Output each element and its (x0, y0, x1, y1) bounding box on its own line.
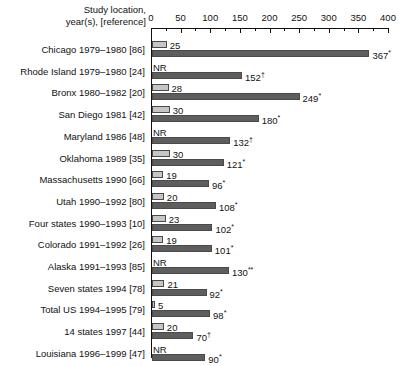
row-light-bar (152, 84, 169, 91)
chart-row: Utah 1990–1992 [80]20108* (0, 192, 399, 214)
value-marker-symbol: ** (248, 266, 253, 273)
row-dark-value-label: 367* (372, 49, 391, 61)
row-category-label: Massachusetts 1990 [66] (0, 174, 145, 185)
chart-row: Louisiana 1996–1999 [47]NR90* (0, 344, 399, 366)
row-dark-value-label: 152† (245, 71, 265, 83)
row-category-label: Utah 1990–1992 [80] (0, 196, 145, 207)
value-marker-symbol: † (261, 71, 265, 78)
row-category-label: Louisiana 1996–1999 [47] (0, 348, 145, 359)
x-axis-tick-minor (255, 28, 256, 31)
row-dark-bar (152, 72, 242, 79)
row-dark-bar (152, 159, 224, 166)
x-axis-tick-major (210, 28, 211, 33)
chart-row: Four states 1990–1993 [10]23102* (0, 214, 399, 236)
row-dark-bar (152, 180, 209, 187)
row-light-bar (152, 150, 170, 157)
chart-row: Oklahoma 1989 [35]30121* (0, 149, 399, 171)
row-category-label: 14 states 1997 [44] (0, 326, 145, 337)
row-light-bar (152, 215, 166, 222)
row-dark-value-label: 108* (219, 201, 238, 213)
row-dark-value-label: 132† (233, 136, 253, 148)
row-dark-bar (152, 289, 207, 296)
chart-row: Bronx 1980–1982 [20]28249* (0, 83, 399, 105)
x-axis-tick-major (358, 28, 359, 33)
header-line-2: year(s), [reference] (0, 16, 146, 28)
row-dark-bar (152, 354, 205, 361)
x-axis-tick-label: 350 (350, 12, 366, 23)
row-dark-value-label: 249* (303, 92, 322, 104)
row-dark-bar (152, 332, 193, 339)
row-light-bar (152, 236, 163, 243)
x-axis-tick-minor (284, 28, 285, 31)
x-axis-tick-major (181, 28, 182, 33)
x-axis-tick-major (388, 28, 389, 33)
value-marker-symbol: * (220, 288, 223, 295)
row-light-bar (152, 301, 155, 308)
x-axis-tick-minor (344, 28, 345, 31)
row-category-label: San Diego 1981 [42] (0, 109, 145, 120)
x-axis-tick-label: 100 (202, 12, 218, 23)
row-dark-value-label: 98* (213, 309, 226, 321)
chart-row: 14 states 1997 [44]2070† (0, 322, 399, 344)
x-axis-tick-minor (166, 28, 167, 31)
chart-row: Total US 1994–1995 [79]598* (0, 300, 399, 322)
chart-row: Rhode Island 1979–1980 [24]NR152† (0, 62, 399, 84)
row-category-label: Chicago 1979–1980 [86] (0, 44, 145, 55)
row-category-label: Total US 1994–1995 [79] (0, 304, 145, 315)
row-category-label: Rhode Island 1979–1980 [24] (0, 66, 145, 77)
row-dark-value-label: 92* (210, 288, 223, 300)
x-axis-tick-label: 50 (175, 12, 186, 23)
x-axis-tick-label: 0 (148, 12, 153, 23)
row-dark-bar (152, 50, 369, 57)
row-dark-bar (152, 245, 212, 252)
value-marker-symbol: * (231, 223, 234, 230)
value-marker-symbol: * (235, 201, 238, 208)
row-category-label: Seven states 1994 [78] (0, 283, 145, 294)
value-marker-symbol: † (207, 331, 211, 338)
value-marker-symbol: † (249, 136, 253, 143)
row-category-label: Four states 1990–1993 [10] (0, 218, 145, 229)
row-light-bar (152, 106, 170, 113)
row-dark-value-label: 90* (208, 353, 221, 365)
value-marker-symbol: * (224, 309, 227, 316)
x-axis-tick-label: 200 (262, 12, 278, 23)
row-dark-bar (152, 267, 229, 274)
row-category-label: Alaska 1991–1993 [85] (0, 261, 145, 272)
row-dark-bar (152, 93, 300, 100)
value-marker-symbol: * (278, 114, 281, 121)
x-axis-tick-minor (314, 28, 315, 31)
header-line-1: Study location, (0, 4, 146, 16)
chart-row: Massachusetts 1990 [66]1996* (0, 170, 399, 192)
x-axis-tick-label: 150 (232, 12, 248, 23)
x-axis-tick-major (329, 28, 330, 33)
row-dark-value-label: 121* (227, 158, 246, 170)
value-marker-symbol: * (318, 92, 321, 99)
row-dark-bar (152, 310, 210, 317)
x-axis-tick-minor (195, 28, 196, 31)
value-marker-symbol: * (222, 179, 225, 186)
x-axis-tick-label: 250 (291, 12, 307, 23)
chart-row: Chicago 1979–1980 [86]25367* (0, 40, 399, 62)
row-dark-value-label: 180* (262, 114, 281, 126)
x-axis-tick-minor (373, 28, 374, 31)
chart-row: Maryland 1986 [48]NR132† (0, 127, 399, 149)
row-dark-value-label: 70† (196, 331, 210, 343)
row-light-bar (152, 323, 164, 330)
row-light-bar (152, 280, 164, 287)
row-category-label: Oklahoma 1989 [35] (0, 153, 145, 164)
row-light-bar (152, 171, 163, 178)
row-light-bar (152, 193, 164, 200)
value-marker-symbol: * (219, 353, 222, 360)
row-dark-value-label: 101* (215, 244, 234, 256)
x-axis-tick-major (151, 28, 152, 33)
x-axis-tick-major (270, 28, 271, 33)
row-dark-bar (152, 202, 216, 209)
x-axis-tick-label: 400 (380, 12, 396, 23)
row-dark-bar (152, 115, 259, 122)
x-axis-tick-label: 300 (321, 12, 337, 23)
row-dark-bar (152, 224, 212, 231)
row-dark-value-label: 130** (232, 266, 253, 278)
row-dark-value-label: 102* (215, 223, 234, 235)
row-light-bar (152, 41, 167, 48)
x-axis-tick-major (240, 28, 241, 33)
